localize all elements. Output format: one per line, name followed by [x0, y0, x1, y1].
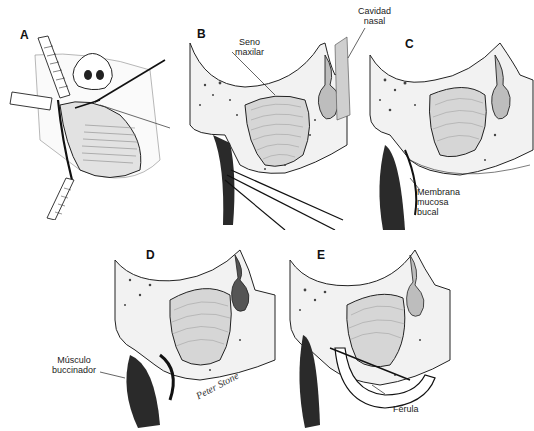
label-ferula: Férula	[393, 404, 419, 414]
label-seno-maxilar: Seno maxilar	[235, 37, 264, 57]
coronal-section-e-illustration	[285, 240, 455, 430]
surgical-view-illustration	[0, 20, 180, 220]
panel-b: B Seno maxilar	[185, 25, 365, 230]
label-musculo-buccinador: Músculo buccinador	[52, 355, 96, 375]
panel-c: C Membrana mucosa bucal	[365, 35, 534, 230]
panel-d: D Peter Stone	[110, 240, 280, 430]
label-cavidad-nasal: Cavidad nasal	[358, 6, 391, 26]
panel-a: A	[0, 20, 180, 220]
coronal-section-d-illustration	[110, 240, 280, 430]
label-membrana-mucosa-bucal: Membrana mucosa bucal	[417, 187, 460, 217]
coronal-section-b-illustration	[185, 25, 365, 230]
panel-e: E Férula	[285, 240, 455, 430]
